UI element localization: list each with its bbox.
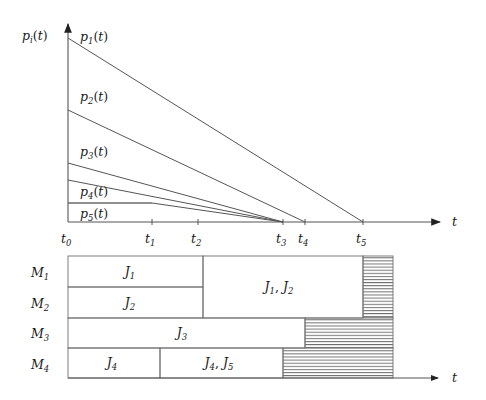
y-axis-label: pi(t) xyxy=(22,28,48,45)
x-tick-label-t0: t0 xyxy=(61,231,72,248)
job-label-j1: J1 xyxy=(122,264,135,281)
x-tick-label-t2: t2 xyxy=(191,231,201,248)
row-label-m3: M3 xyxy=(30,326,49,343)
series-label-p5: p5(t) xyxy=(80,206,108,223)
x-tick-label-t1: t1 xyxy=(145,231,155,248)
idle-block-m4 xyxy=(283,348,393,378)
figure-container: pi(t) t p1(t) p2(t) p3(t) p4(t) xyxy=(0,0,486,400)
top-chart: pi(t) t p1(t) p2(t) p3(t) p4(t) xyxy=(22,24,458,248)
job-label-j4j5: J4, J5 xyxy=(202,355,234,372)
idle-block-m1 xyxy=(363,256,393,318)
x-axis-label: t xyxy=(452,214,458,229)
gantt-chart: t M1 M2 M3 M4 J1 J2 J1, J2 xyxy=(30,256,458,385)
job-label-j4: J4 xyxy=(104,355,117,372)
series-label-p4: p4(t) xyxy=(80,184,108,201)
figure-svg: pi(t) t p1(t) p2(t) p3(t) p4(t) xyxy=(0,0,486,400)
series-label-p2: p2(t) xyxy=(80,89,108,106)
series-line-p1 xyxy=(68,38,363,222)
row-label-m1: M1 xyxy=(30,265,49,282)
gantt-x-axis-label: t xyxy=(452,370,458,385)
job-label-j1j2: J1, J2 xyxy=(262,279,294,296)
job-block-j1 xyxy=(68,256,203,287)
x-tick-label-t3: t3 xyxy=(276,231,286,248)
x-tick-label-t4: t4 xyxy=(298,231,308,248)
row-label-m4: M4 xyxy=(30,357,49,374)
x-tick-label-t5: t5 xyxy=(356,231,366,248)
series-label-p3: p3(t) xyxy=(80,144,108,161)
row-label-m2: M2 xyxy=(30,296,49,313)
series-label-p1: p1(t) xyxy=(80,29,108,46)
job-label-j2: J2 xyxy=(122,295,135,312)
job-label-j3: J3 xyxy=(174,325,187,342)
job-block-j2 xyxy=(68,287,203,318)
idle-block-m3 xyxy=(305,318,393,348)
